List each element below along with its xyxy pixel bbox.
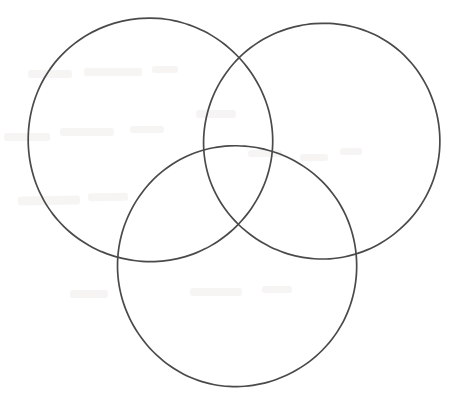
ghost-mark-12 bbox=[262, 286, 292, 293]
ghost-mark-2 bbox=[4, 133, 50, 141]
ghost-mark-11 bbox=[190, 288, 242, 296]
ghost-mark-0 bbox=[18, 195, 80, 205]
ghost-mark-7 bbox=[152, 66, 178, 73]
ghost-mark-3 bbox=[60, 128, 114, 136]
ghost-mark-8 bbox=[196, 110, 236, 118]
venn-diagram-page bbox=[0, 0, 466, 403]
ghost-mark-13 bbox=[300, 154, 328, 161]
ghost-mark-14 bbox=[340, 148, 362, 155]
ghost-mark-1 bbox=[88, 193, 128, 202]
ghost-mark-10 bbox=[70, 290, 108, 298]
venn-diagram-canvas bbox=[0, 0, 466, 403]
ghost-mark-6 bbox=[84, 68, 142, 76]
ghost-mark-5 bbox=[28, 70, 72, 78]
ghost-mark-4 bbox=[130, 126, 164, 133]
